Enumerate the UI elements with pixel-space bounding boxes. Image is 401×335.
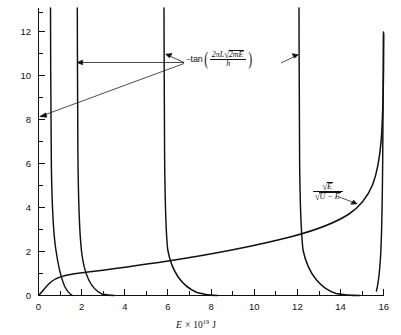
x-tick-label: 4 [122,301,127,312]
sqrt-U-minus-E: √U − E [315,192,341,201]
x-tick-label: 12 [292,301,303,312]
annotation-tan-formula: −tan ( 2πL√2mE h ) [186,50,254,68]
x-tick-label: 0 [36,301,41,312]
radical-glyph: √ [315,192,320,202]
x-tick-label: 14 [335,301,346,312]
x-axis-title-base: 10 [193,320,203,330]
x-axis-title: E×1019J [175,318,216,330]
y-tick-label: 2 [26,246,31,257]
right-paren: ) [249,51,253,67]
y-tick-label: 8 [26,114,31,125]
y-tick-label: 6 [26,158,31,169]
y-tick-label: 4 [26,202,31,213]
x-axis-title-exponent: 19 [203,318,209,325]
x-tick-labels: 0 2 4 6 8 10 12 14 16 [36,301,389,312]
x-tick-label: 10 [249,301,260,312]
leader-arrowhead-diagonal [40,113,47,117]
tan-fraction: 2πL√2mE h [210,50,247,68]
ratio-fraction: √E √U − E [313,182,343,201]
ratio-numerator: √E [321,182,335,191]
x-axis-title-symbol: E [175,320,182,330]
tan-branch-4 [299,8,360,296]
ratio-curve [39,34,384,295]
y-tick-label: 10 [20,70,31,81]
tan-branch-1 [51,8,73,295]
ratio-curve-series [39,34,384,295]
x-tick-label: 16 [378,301,389,312]
annotation-ratio-formula: √E √U − E [312,182,344,201]
ratio-denominator: √U − E [313,192,343,201]
leader-line-diagonal [42,64,185,117]
y-tick-label: 0 [26,290,31,301]
left-paren: ( [204,51,208,67]
annotation-leader-lines [40,54,357,205]
tan-branch-5 [376,32,383,291]
sqrt-radicand: 2mE [229,50,245,59]
tan-denominator: h [224,60,232,68]
leader-arrowhead-upper [166,54,172,58]
x-tick-label: 6 [165,301,170,312]
figure-container: 0 2 4 6 8 10 12 0 2 4 6 8 10 12 14 16 E×… [0,0,401,335]
tan-branch-2 [77,8,114,296]
x-axis-title-unit: J [212,320,216,330]
y-axis [39,8,45,296]
y-tick-labels: 0 2 4 6 8 10 12 [20,26,31,301]
x-axis-title-times: × [185,320,190,330]
sqrt-E: √E [323,182,333,191]
x-tick-label: 2 [79,301,84,312]
svg-text:E×1019J: E×1019J [175,318,216,330]
radical-glyph: √ [323,182,328,192]
sqrt-num-radicand: E [327,182,333,191]
leader-arrowhead-ratio [351,200,357,204]
x-tick-label: 8 [208,301,213,312]
tan-function-name: tan [191,55,203,64]
sqrt-den-radicand: U − E [319,192,340,201]
radical-glyph: √ [224,50,229,60]
y-tick-label: 12 [20,26,31,37]
sqrt-2mE: √2mE [224,50,244,59]
tan-numerator: 2πL√2mE [210,50,247,59]
tan-two-pi-L: 2πL [212,50,224,59]
